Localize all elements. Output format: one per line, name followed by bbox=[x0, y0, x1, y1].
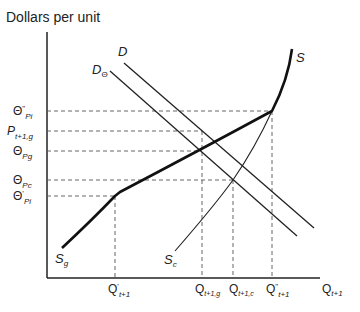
label-sg: Sg bbox=[55, 251, 69, 268]
label-d-theta: DΘ bbox=[92, 62, 108, 79]
x-tick-q-double-prime: Q"t+1 bbox=[266, 282, 290, 299]
y-tick-theta-pc: ΘPc bbox=[13, 173, 32, 190]
vertical-guides bbox=[115, 111, 272, 278]
y-tick-theta-pi-single: Θ'Pi bbox=[13, 189, 31, 206]
x-tick-q-c: Qt+1,c bbox=[229, 282, 254, 297]
supply-curve-s bbox=[62, 49, 292, 248]
x-tick-q-g: Qt+1,g bbox=[195, 282, 220, 298]
demand-curve-d bbox=[124, 63, 314, 228]
y-axis-title: Dollars per unit bbox=[6, 9, 100, 25]
label-d: D bbox=[118, 44, 127, 59]
y-tick-theta-pi-double: Θ"Pi bbox=[13, 104, 33, 121]
y-tick-theta-pg: ΘPg bbox=[13, 144, 33, 161]
supply-curve-sc bbox=[175, 111, 272, 251]
supply-demand-diagram: Dollars per unit D DΘ S Sg Sc Θ"Pi Pt+1,… bbox=[0, 0, 360, 312]
y-tick-p-t1-g: Pt+1,g bbox=[7, 124, 34, 141]
label-s: S bbox=[296, 50, 305, 65]
label-sc: Sc bbox=[164, 252, 177, 269]
x-tick-q-prime: Q't+1 bbox=[108, 282, 130, 299]
horizontal-guides bbox=[47, 111, 272, 196]
x-axis-title: Qt+1 bbox=[322, 282, 343, 298]
demand-curve-d-theta bbox=[110, 71, 297, 236]
